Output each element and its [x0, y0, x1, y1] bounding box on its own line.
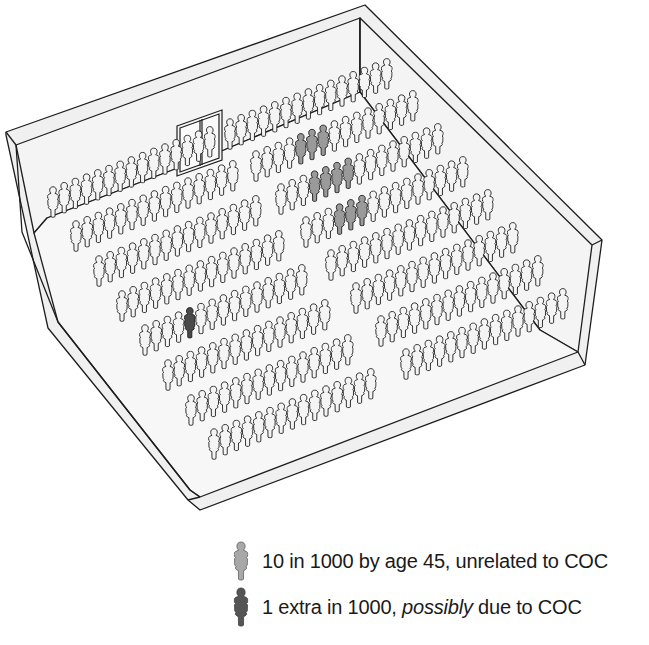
- person-icon-grey: [230, 541, 252, 581]
- legend-item-grey: 10 in 1000 by age 45, unrelated to COC: [230, 538, 649, 584]
- legend-label-grey: 10 in 1000 by age 45, unrelated to COC: [262, 550, 608, 573]
- legend-label-dark-after: due to COC: [473, 596, 582, 618]
- legend-label-dark-italic: possibly: [402, 596, 473, 618]
- legend-item-dark: 1 extra in 1000, possibly due to COC: [230, 584, 649, 630]
- legend-label-dark: 1 extra in 1000, possibly due to COC: [262, 596, 582, 619]
- legend: 10 in 1000 by age 45, unrelated to COC 1…: [230, 538, 649, 630]
- room-walls: [6, 5, 602, 510]
- person-icon-dark: [230, 587, 252, 627]
- room-illustration: [0, 0, 649, 530]
- legend-label-dark-before: 1 extra in 1000,: [262, 596, 402, 618]
